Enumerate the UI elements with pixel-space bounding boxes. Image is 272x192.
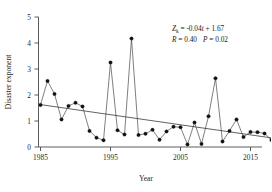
data-point [137, 133, 141, 137]
annotation-equation: Zk = -0.04t + 1.67 [172, 24, 225, 34]
annotation-equation-rest: = -0.04 [179, 24, 202, 33]
data-point [200, 142, 204, 146]
data-point [67, 104, 71, 108]
disaster-exponent-chart: 0 1 2 3 4 5 1985 1995 2005 2015 Year Dis… [0, 0, 271, 192]
data-point [95, 136, 99, 140]
x-axis: 1985 1995 2005 2015 [33, 147, 262, 162]
x-tick-label-1985: 1985 [33, 153, 48, 162]
data-point [242, 135, 246, 139]
y-axis: 0 1 2 3 4 5 [27, 13, 38, 152]
data-point [249, 130, 253, 134]
y-tick-label-2: 2 [27, 91, 31, 100]
data-point [221, 140, 225, 144]
data-point [123, 133, 127, 137]
data-point [165, 130, 169, 134]
data-point [263, 132, 267, 136]
data-point [102, 138, 106, 142]
data-point [60, 118, 64, 122]
data-point [151, 128, 155, 132]
y-tick-label-5: 5 [27, 13, 31, 22]
regression-annotation: Zk = -0.04t + 1.67 R = 0.40P = 0.02 [171, 24, 228, 44]
y-tick-label-4: 4 [27, 39, 31, 48]
data-point [158, 138, 162, 142]
y-tick-label-0: 0 [27, 143, 31, 152]
annotation-equation-tail: + 1.67 [204, 24, 225, 33]
y-tick-label-1: 1 [27, 117, 31, 126]
x-axis-ticks [41, 147, 251, 151]
data-point [46, 79, 50, 83]
data-point [179, 125, 183, 128]
x-tick-label-1995: 1995 [103, 153, 118, 162]
data-point [186, 143, 190, 147]
x-tick-label-2015: 2015 [243, 153, 258, 162]
x-tick-label-2005: 2005 [173, 153, 188, 162]
x-axis-title: Year [139, 174, 153, 183]
data-point [144, 132, 148, 136]
series-line-disaster-exponent [41, 39, 272, 145]
data-point [109, 61, 113, 65]
y-axis-title: Disaster exponent [4, 54, 13, 110]
data-point [256, 130, 260, 134]
data-point [53, 92, 57, 96]
data-point-markers [39, 37, 271, 146]
data-point [130, 37, 134, 41]
y-axis-ticks [35, 17, 39, 147]
y-tick-label-3: 3 [27, 65, 31, 74]
data-point [235, 118, 239, 122]
annotation-stats: R = 0.40P = 0.02 [171, 35, 228, 44]
data-point [207, 115, 211, 119]
data-point [172, 125, 176, 129]
data-point [214, 77, 218, 81]
data-point [228, 129, 232, 133]
chart-canvas: 0 1 2 3 4 5 1985 1995 2005 2015 Year Dis… [0, 0, 271, 192]
data-point [88, 129, 92, 133]
data-point [193, 121, 197, 125]
data-point [39, 103, 43, 107]
data-point [74, 101, 78, 105]
annotation-r-value: = 0.40 [176, 35, 197, 44]
data-point [81, 105, 85, 109]
data-point [116, 129, 120, 133]
annotation-p-value: = 0.02 [207, 35, 228, 44]
